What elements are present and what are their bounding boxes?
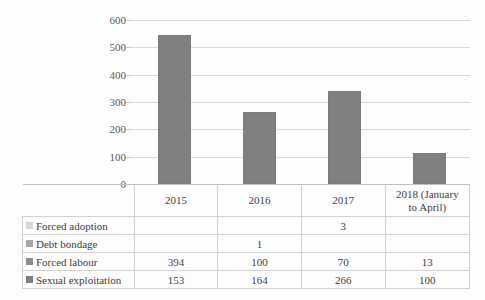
legend-swatch-icon <box>26 240 33 247</box>
plot-area <box>130 20 470 184</box>
column-header-label: 2015 <box>135 194 218 207</box>
cell-forced-adoption-2015 <box>134 217 218 235</box>
legend-label: Forced adoption <box>36 220 108 232</box>
legend-swatch-icon <box>26 258 33 265</box>
cell-debt-bondage-2017 <box>301 235 385 253</box>
column-header-2016: 2016 <box>218 185 302 217</box>
table-corner-blank <box>23 185 135 217</box>
cell-debt-bondage-2018 <box>385 235 469 253</box>
column-header-label-line2: to April) <box>386 201 469 214</box>
cell-forced-labour-2017: 70 <box>301 253 385 271</box>
table-row: Debt bondage 1 <box>23 235 470 253</box>
cell-forced-labour-2015: 394 <box>134 253 218 271</box>
cell-sexual-exploitation-2018: 100 <box>385 271 469 289</box>
y-tick-label: 100 <box>110 151 127 162</box>
column-header-2018: 2018 (January to April) <box>385 185 469 217</box>
y-tick-label: 400 <box>110 69 127 80</box>
table-row: Forced adoption 3 <box>23 217 470 235</box>
column-header-label: 2016 <box>218 194 301 207</box>
legend-item-debt-bondage[interactable]: Debt bondage <box>23 235 135 253</box>
table-row: Forced labour 394 100 70 13 <box>23 253 470 271</box>
table-header-row: 2015 2016 2017 2018 (January to April) <box>23 185 470 217</box>
y-tick-label: 600 <box>110 15 127 26</box>
column-header-label-line1: 2018 (January <box>386 188 469 201</box>
chart-figure: 600 500 400 300 200 100 0 20 <box>0 0 485 300</box>
legend-label: Sexual exploitation <box>36 274 121 286</box>
legend-item-forced-adoption[interactable]: Forced adoption <box>23 217 135 235</box>
column-header-2015: 2015 <box>134 185 218 217</box>
y-tick-label: 500 <box>110 42 127 53</box>
legend-label: Debt bondage <box>36 238 97 250</box>
cell-debt-bondage-2015 <box>134 235 218 253</box>
cell-forced-adoption-2018 <box>385 217 469 235</box>
cell-forced-labour-2018: 13 <box>385 253 469 271</box>
legend-item-sexual-exploitation[interactable]: Sexual exploitation <box>23 271 135 289</box>
cell-sexual-exploitation-2016: 164 <box>218 271 302 289</box>
cell-forced-adoption-2017: 3 <box>301 217 385 235</box>
legend-swatch-icon <box>26 222 33 229</box>
data-table: 2015 2016 2017 2018 (January to April) F… <box>22 184 470 289</box>
legend-swatch-icon <box>26 276 33 283</box>
cell-sexual-exploitation-2017: 266 <box>301 271 385 289</box>
bar-2016[interactable] <box>243 112 276 184</box>
cell-debt-bondage-2016: 1 <box>218 235 302 253</box>
table-row: Sexual exploitation 153 164 266 100 <box>23 271 470 289</box>
column-header-2017: 2017 <box>301 185 385 217</box>
cell-forced-labour-2016: 100 <box>218 253 302 271</box>
gridline-600 <box>130 20 470 21</box>
cell-forced-adoption-2016 <box>218 217 302 235</box>
bar-2018[interactable] <box>413 153 446 184</box>
y-tick-label: 200 <box>110 124 127 135</box>
cell-sexual-exploitation-2015: 153 <box>134 271 218 289</box>
legend-item-forced-labour[interactable]: Forced labour <box>23 253 135 271</box>
bar-2017[interactable] <box>328 91 361 184</box>
bar-2015[interactable] <box>158 35 191 185</box>
column-header-label: 2017 <box>302 194 385 207</box>
legend-label: Forced labour <box>36 256 97 268</box>
y-axis: 600 500 400 300 200 100 0 <box>96 20 126 184</box>
y-tick-label: 300 <box>110 97 127 108</box>
